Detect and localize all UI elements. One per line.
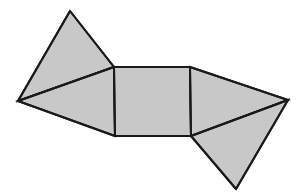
polygon-net-diagram: [0, 0, 298, 196]
face-center-square: [114, 67, 191, 136]
edge-square-right: [190, 67, 191, 136]
edge-square-left: [114, 67, 115, 136]
